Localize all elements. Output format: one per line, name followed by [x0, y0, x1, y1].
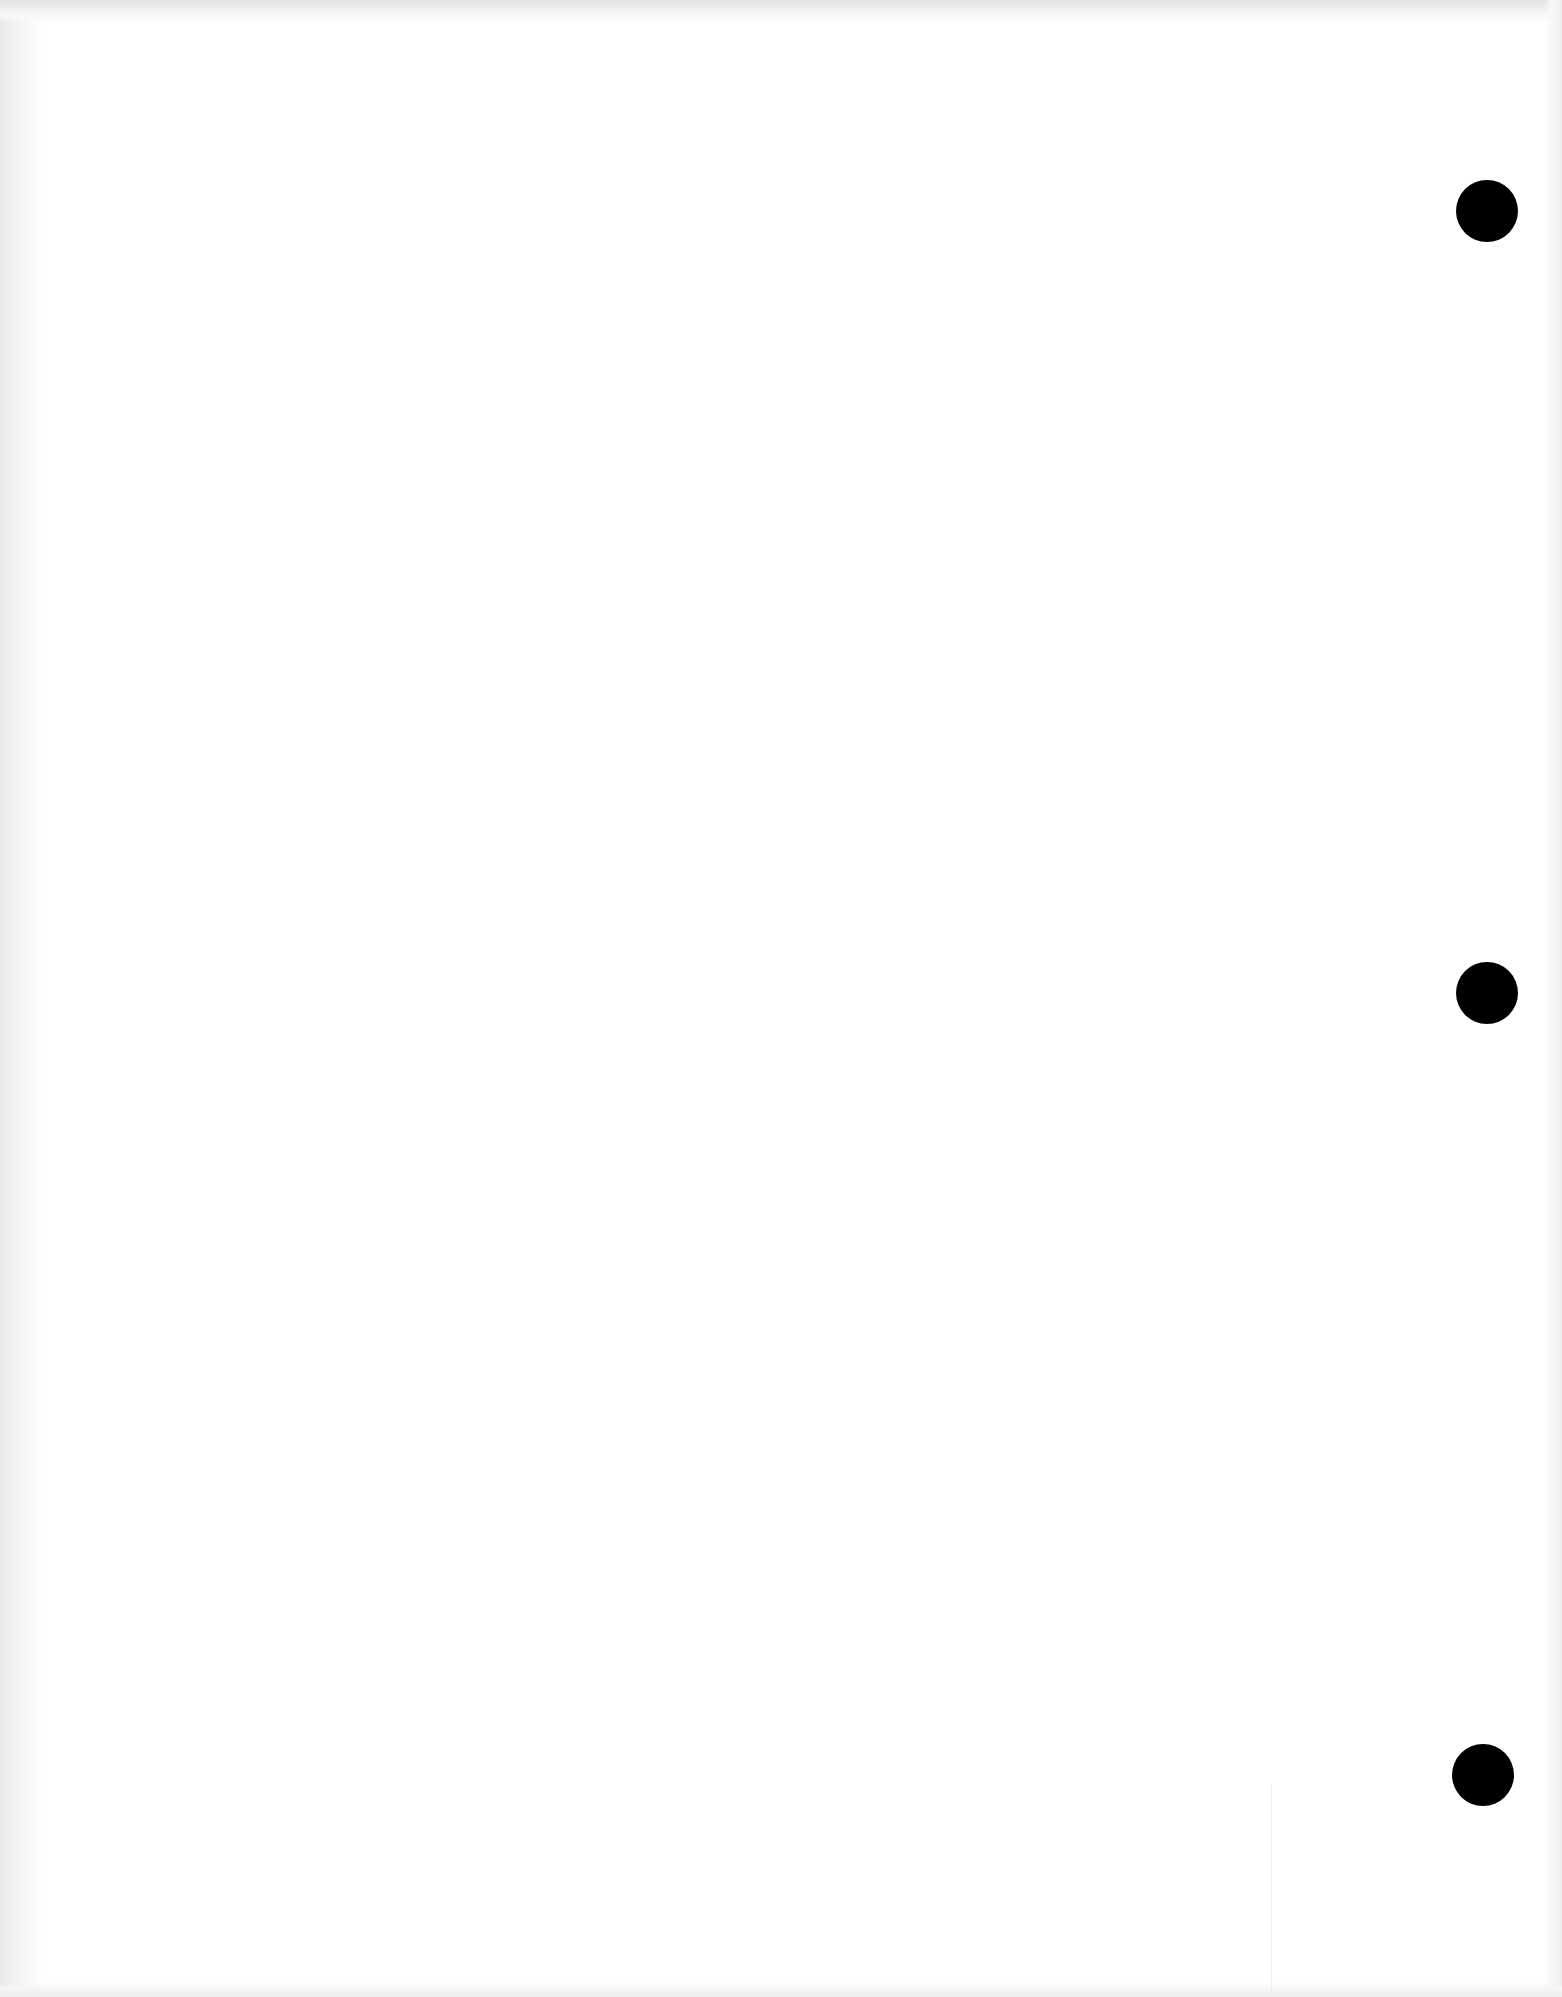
blank-paper-page	[0, 0, 1562, 1997]
punch-hole-top	[1456, 180, 1518, 242]
scan-shadow-top	[0, 0, 1562, 22]
punch-hole-bottom	[1452, 1744, 1514, 1806]
faint-crease-line	[1271, 1785, 1272, 1997]
scan-shadow-bottom	[0, 1983, 1562, 1997]
scan-shadow-right	[1544, 0, 1562, 1997]
scan-shadow-left	[0, 0, 44, 1997]
punch-hole-middle	[1456, 962, 1518, 1024]
